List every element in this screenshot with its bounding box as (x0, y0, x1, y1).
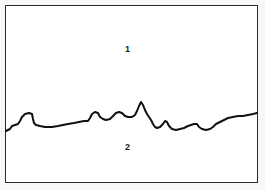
boundary-profile-svg (0, 0, 265, 190)
boundary-line (6, 102, 257, 131)
region-label-2: 2 (125, 143, 130, 152)
figure-root: 1 2 (0, 0, 265, 190)
region-label-1: 1 (125, 45, 130, 54)
